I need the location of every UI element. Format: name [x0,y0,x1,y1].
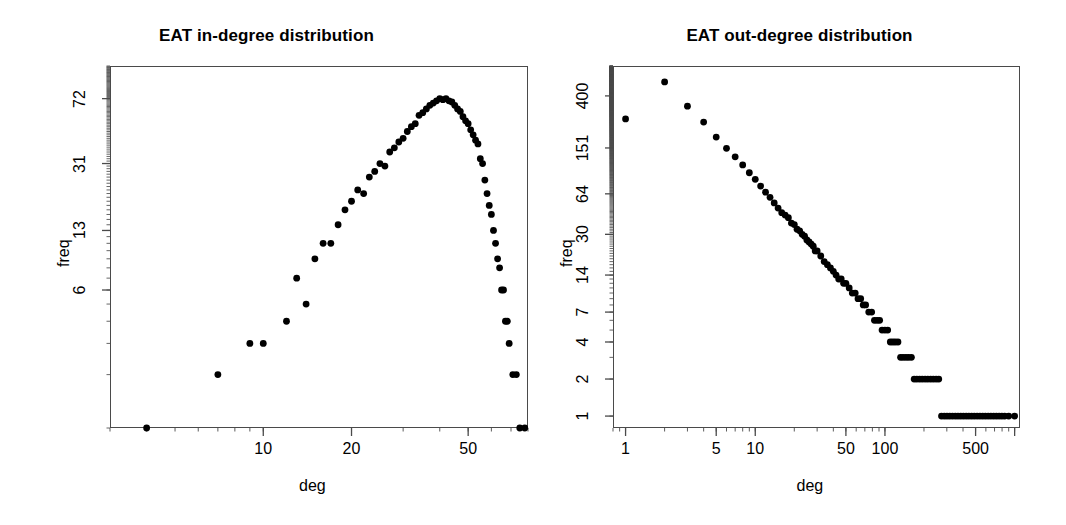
y-tick-label: 64 [574,185,592,203]
y-tick-label: 14 [574,266,592,284]
x-tick-label: 20 [343,440,361,458]
y-axis-label-in-degree: freq [55,239,73,267]
y-tick-label: 30 [574,225,592,243]
y-tick-label: 4 [574,338,592,347]
y-tick-label: 7 [574,308,592,317]
y-tick-label: 13 [71,222,89,240]
y-tick-label: 151 [574,135,592,162]
figure-root: EAT in-degree distribution deg freq 1020… [0,0,1066,525]
y-axis-label-out-degree: freq [558,239,576,267]
panel-in-degree: EAT in-degree distribution deg freq 1020… [0,0,533,525]
y-tick-label: 72 [71,90,89,108]
x-tick-label: 1 [621,440,630,458]
y-tick-label: 31 [71,155,89,173]
x-axis-label-in-degree: deg [299,477,326,495]
x-axis-label-out-degree: deg [797,477,824,495]
x-tick-label: 10 [254,440,272,458]
x-tick-label: 5 [712,440,721,458]
x-tick-label: 50 [837,440,855,458]
y-tick-label: 6 [71,286,89,295]
x-tick-label: 50 [459,440,477,458]
panel-out-degree: EAT out-degree distribution deg freq 151… [533,0,1066,525]
x-tick-label: 10 [746,440,764,458]
y-tick-label: 400 [574,83,592,110]
y-tick-label: 2 [574,375,592,384]
x-tick-label: 500 [962,440,989,458]
y-tick-label: 1 [574,412,592,421]
x-tick-label: 100 [872,440,899,458]
